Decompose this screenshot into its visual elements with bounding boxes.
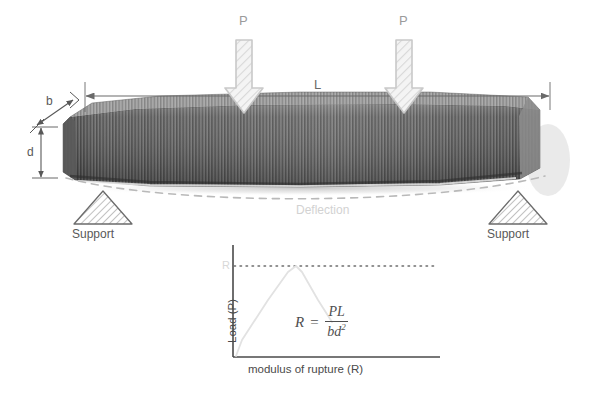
formula-denominator: bd2 bbox=[324, 322, 349, 339]
deflection-label: Deflection bbox=[296, 204, 349, 216]
width-extension-near bbox=[30, 119, 44, 133]
width-extension-far bbox=[70, 92, 79, 108]
depth-label: d bbox=[27, 146, 34, 158]
beam-specimen bbox=[55, 85, 560, 195]
width-label: b bbox=[46, 95, 53, 107]
formula-equals: = bbox=[309, 315, 319, 330]
load-deflection-chart bbox=[233, 245, 440, 357]
chart-x-axis-label: modulus of rupture (R) bbox=[248, 364, 363, 376]
modulus-of-rupture-formula: R = PL bd2 bbox=[295, 305, 349, 339]
support-label-left: Support bbox=[72, 228, 114, 240]
bending-test-figure: P P L b d Support Support Deflection R m… bbox=[0, 0, 616, 396]
formula-denominator-exponent: 2 bbox=[341, 322, 346, 332]
formula-numerator: PL bbox=[325, 305, 347, 322]
span-label: L bbox=[314, 78, 321, 91]
beam-left-end-face bbox=[63, 117, 76, 180]
support-triangle-left-shape bbox=[74, 191, 132, 224]
support-triangle-left bbox=[74, 191, 132, 224]
support-label-right: Support bbox=[487, 228, 529, 240]
support-triangle-right-shape bbox=[489, 191, 547, 224]
depth-dimension-d bbox=[32, 127, 58, 178]
formula-denominator-base: bd bbox=[327, 323, 341, 338]
chart-y-axis-label: Load (P) bbox=[227, 299, 239, 343]
formula-fraction: PL bd2 bbox=[324, 305, 349, 339]
chart-rupture-threshold-label: R bbox=[222, 260, 230, 271]
load-label-left: P bbox=[239, 14, 248, 27]
load-label-right: P bbox=[399, 14, 408, 27]
support-triangle-right bbox=[489, 191, 547, 224]
formula-lhs: R bbox=[295, 315, 304, 330]
